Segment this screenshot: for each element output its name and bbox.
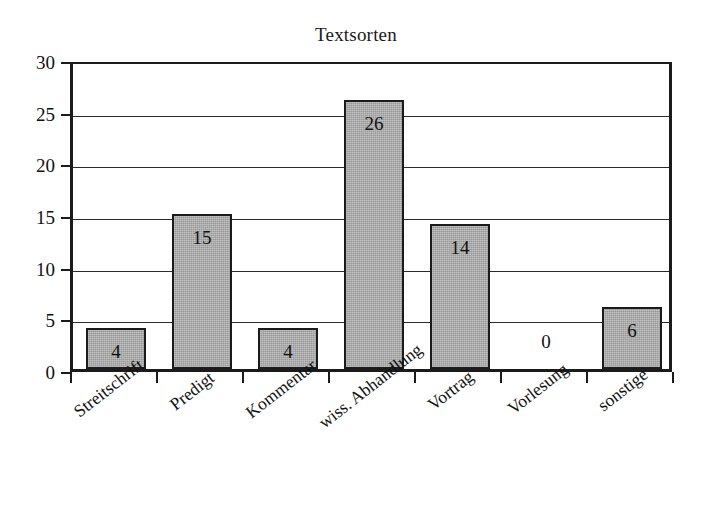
chart-title: Textsorten [0, 24, 712, 46]
y-axis-tick-mark [61, 269, 70, 271]
y-axis-tick-label: 15 [9, 208, 55, 227]
y-axis-tick-label: 5 [9, 311, 55, 330]
x-axis-tick-mark [414, 372, 416, 383]
x-axis-tick-mark [586, 372, 588, 383]
x-axis-category-label: Vortrag [425, 368, 477, 414]
y-axis-tick-mark [61, 165, 70, 167]
y-axis-tick-mark [61, 372, 70, 374]
bar-value-label: 0 [516, 332, 576, 351]
x-axis-category-label: sonstige [595, 366, 651, 415]
y-axis-tick-label: 10 [9, 260, 55, 279]
plot-area: 4154261406 [70, 62, 672, 372]
x-axis-tick-mark [328, 372, 330, 383]
x-axis-tick-mark [156, 372, 158, 383]
bar[interactable] [172, 214, 232, 369]
y-axis-tick-label: 20 [9, 156, 55, 175]
bar[interactable] [602, 307, 662, 369]
x-axis-tick-mark [500, 372, 502, 383]
bar-chart-figure: Textsorten 051015202530 4154261406 Strei… [0, 0, 712, 526]
x-axis-tick-mark [242, 372, 244, 383]
y-axis-tick-label: 0 [9, 363, 55, 382]
y-axis-tick-label: 30 [9, 53, 55, 72]
bar[interactable] [344, 100, 404, 369]
y-axis-tick-mark [61, 114, 70, 116]
y-axis-tick-mark [61, 217, 70, 219]
x-axis-category-label: Predigt [167, 368, 218, 413]
bar[interactable] [430, 224, 490, 369]
y-axis-tick-mark [61, 62, 70, 64]
x-axis-tick-mark [672, 372, 674, 383]
x-axis-tick-mark [70, 372, 72, 383]
y-axis-tick-label: 25 [9, 105, 55, 124]
y-axis-tick-mark [61, 320, 70, 322]
